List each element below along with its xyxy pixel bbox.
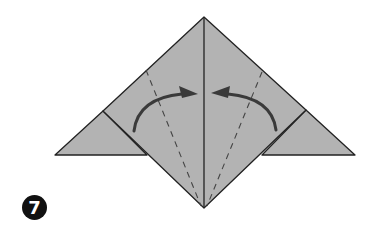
- step-number-badge: 7: [22, 195, 47, 220]
- origami-diagram: [0, 0, 376, 228]
